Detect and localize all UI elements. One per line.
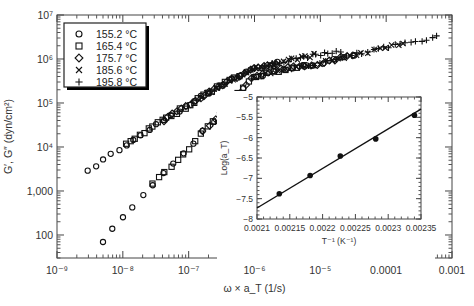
x-tick-label: 10⁻⁶	[243, 264, 265, 276]
x-tick-label: 10⁻⁸	[112, 264, 134, 276]
inset-x-tick-label: 0.0021	[244, 223, 270, 233]
circle-marker	[141, 192, 146, 197]
inset-data-point	[338, 153, 344, 159]
y-tick-label: 10⁶	[37, 53, 53, 65]
y-tick-label: 10⁵	[37, 97, 53, 109]
inset-y-tick-label: −8	[243, 214, 253, 224]
x-tick-label: 10⁻⁵	[309, 264, 331, 276]
plus-marker	[365, 49, 371, 55]
legend-label: 175.7 °C	[96, 52, 137, 64]
legend-label: 195.8 °C	[96, 76, 137, 88]
circle-marker	[85, 168, 90, 173]
x-tick-label: 0.0001	[370, 264, 402, 276]
plus-marker	[408, 39, 414, 45]
x-tick-label: 10⁻⁷	[178, 264, 200, 276]
square-marker	[156, 174, 161, 179]
y-tick-label: 100	[35, 229, 53, 241]
circle-marker	[120, 215, 125, 220]
legend-label: 185.6 °C	[96, 64, 137, 76]
inset-x-tick-label: 0.00225	[340, 223, 371, 233]
inset-y-axis-label: Log(a_T)	[219, 141, 229, 176]
inset-data-point	[307, 173, 313, 179]
y-tick-label: 1,000	[27, 185, 53, 197]
inset-y-tick-label: −7.5	[236, 194, 253, 204]
legend-label: 165.4 °C	[96, 40, 137, 52]
plus-marker	[402, 40, 408, 46]
inset-x-axis-label: T⁻¹ (K⁻¹)	[322, 236, 357, 246]
circle-marker	[100, 239, 105, 244]
inset-y-tick-label: −5	[243, 92, 253, 102]
x-marker	[389, 42, 394, 47]
inset-plot-shift-factor: 0.00210.002150.00220.002250.00230.00235−…	[217, 91, 437, 263]
inset-data-point	[412, 113, 418, 119]
chart-figure: 10⁻⁹10⁻⁸10⁻⁷10⁻⁶10⁻⁵0.00010.0011001,0001…	[0, 0, 474, 306]
y-tick-label: 10⁷	[38, 9, 54, 21]
square-marker	[187, 147, 192, 152]
inset-data-point	[277, 191, 283, 197]
x-axis-label: ω × a_T (1/s)	[224, 282, 286, 294]
circle-marker	[100, 157, 105, 162]
inset-x-tick-label: 0.0022	[310, 223, 336, 233]
inset-y-tick-label: −6	[243, 133, 253, 143]
inset-data-point	[373, 136, 379, 142]
y-axis-label: G′, G″ (dyn/cm²)	[2, 99, 14, 174]
plus-marker	[321, 49, 327, 55]
plus-marker	[423, 37, 429, 43]
plus-marker	[312, 51, 318, 57]
circle-marker	[117, 148, 122, 153]
circle-marker	[110, 226, 115, 231]
inset-x-tick-label: 0.00235	[406, 223, 437, 233]
plus-marker	[338, 49, 344, 55]
inset-y-tick-label: −6.5	[236, 153, 253, 163]
inset-y-tick-label: −7	[243, 173, 253, 183]
inset-x-tick-label: 0.00215	[274, 223, 305, 233]
x-tick-label: 0.001	[439, 264, 465, 276]
inset-x-tick-label: 0.0023	[375, 223, 401, 233]
circle-marker	[130, 205, 135, 210]
y-tick-label: 10⁴	[37, 141, 53, 153]
plus-marker	[318, 52, 324, 58]
inset-y-tick-label: −5.5	[236, 112, 253, 122]
x-tick-label: 10⁻⁹	[46, 264, 68, 276]
legend: 155.2 °C165.4 °C175.7 °C185.6 °C195.8 °C	[64, 23, 149, 90]
square-marker	[176, 157, 181, 162]
circle-marker	[108, 151, 113, 156]
legend-label: 155.2 °C	[96, 28, 137, 40]
plus-marker	[412, 38, 418, 44]
plus-marker	[419, 38, 425, 44]
circle-marker	[94, 164, 99, 169]
